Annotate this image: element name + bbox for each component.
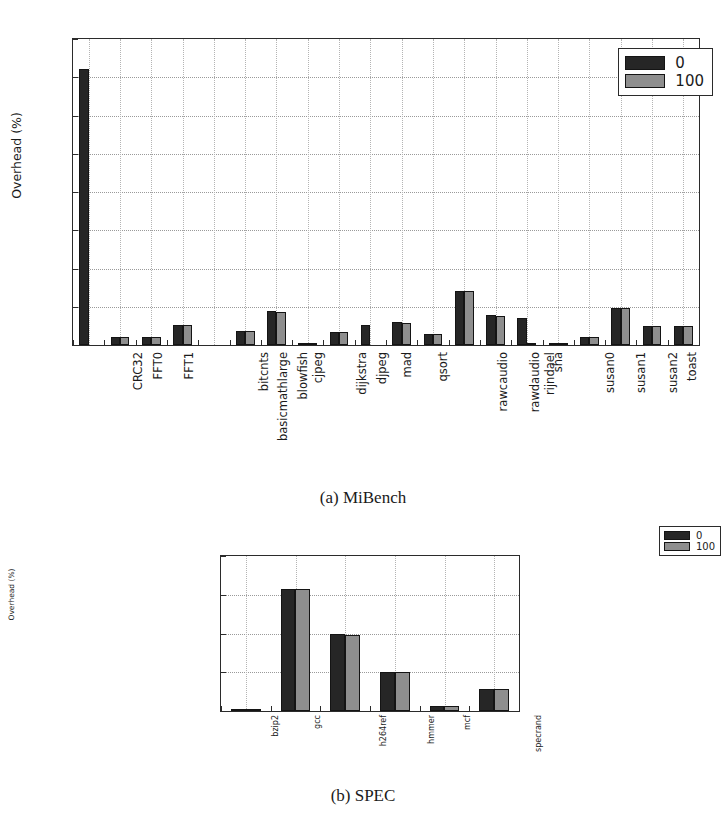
x-tick-label: FFT0 [151, 352, 165, 379]
legend-label: 0 [675, 54, 685, 72]
x-tick-label: h264ref [379, 715, 388, 746]
bar-specrand-100 [494, 689, 509, 711]
x-gridline [245, 39, 246, 345]
bar-group [643, 326, 662, 345]
x-tick-label: susan1 [634, 352, 648, 393]
x-gridline [151, 39, 152, 345]
bar-group [392, 322, 411, 345]
x-tick-label: CRC32 [131, 352, 145, 390]
x-tick-mark [136, 340, 137, 345]
x-tick-label: basicmathlarge [276, 352, 290, 441]
plot-area-spec: 0.00.51.01.52.0 [220, 555, 520, 712]
bar-dijkstra-0 [298, 343, 307, 345]
bar-cjpeg-100 [276, 312, 285, 345]
x-gridline [214, 39, 215, 345]
bar-group [611, 308, 630, 345]
x-gridline [589, 39, 590, 345]
x-tick-label: rawcaudio [496, 352, 510, 411]
x-gridline [558, 39, 559, 345]
bar-group [330, 634, 360, 711]
x-tick-mark [230, 340, 231, 345]
bar-group [231, 709, 261, 711]
x-tick-label: gcc [312, 715, 321, 729]
legend-swatch-0 [625, 56, 665, 70]
bar-cjpeg-0 [267, 311, 276, 345]
y-tick-mark [73, 230, 78, 231]
bar-group [486, 315, 505, 345]
bar-untoast-0 [674, 326, 683, 345]
x-tick-mark [271, 706, 272, 711]
y-gridline [73, 77, 699, 78]
bar-susan2-0 [611, 308, 620, 345]
x-tick-mark [449, 340, 450, 345]
x-tick-mark [417, 340, 418, 345]
x-gridline [370, 39, 371, 345]
legend-swatch-100 [625, 74, 665, 88]
y-tick-mark [221, 595, 226, 596]
bar-qsort-0 [392, 322, 401, 345]
bar-group [236, 331, 255, 345]
legend-item-100: 100 [625, 72, 704, 90]
legend-item-0: 0 [664, 530, 715, 541]
y-gridline [73, 154, 699, 155]
x-tick-mark [636, 340, 637, 345]
y-tick-mark [73, 39, 78, 40]
x-tick-mark [198, 340, 199, 345]
bar-group [430, 706, 460, 711]
y-tick-label: 3.5 [72, 69, 73, 85]
x-tick-label: bitcnts [257, 352, 271, 391]
y-tick-label: 0.5 [220, 667, 221, 677]
figure-spec: Overhead (%) 0.00.51.01.52.0 (b) SPEC bz… [0, 520, 726, 836]
chart-legend: 0100 [659, 526, 721, 556]
figure-caption: (b) SPEC [0, 786, 726, 806]
x-gridline [494, 556, 495, 711]
bar-group [549, 343, 568, 345]
bar-group [674, 326, 693, 345]
y-tick-mark [73, 192, 78, 193]
chart-legend: 0100 [618, 48, 713, 96]
x-tick-mark [386, 340, 387, 345]
bar-group [361, 325, 380, 345]
bar-susan2-100 [621, 308, 630, 345]
bar-h264ref-100 [345, 635, 360, 711]
x-gridline [183, 39, 184, 345]
bar-blowfish-0 [236, 331, 245, 345]
bar-rawdaudio-100 [464, 291, 473, 345]
legend-label: 100 [675, 72, 704, 90]
y-tick-mark [221, 711, 226, 712]
y-tick-label: 2.0 [220, 555, 221, 561]
y-tick-label: 2.5 [72, 146, 73, 162]
legend-label: 100 [696, 541, 715, 552]
x-tick-mark [370, 706, 371, 711]
x-tick-mark [323, 340, 324, 345]
bar-susan1-0 [580, 337, 589, 345]
x-tick-mark [73, 340, 74, 345]
y-gridline [221, 595, 519, 596]
y-tick-label: 3.0 [72, 108, 73, 124]
y-gridline [73, 192, 699, 193]
x-tick-label: susan0 [603, 352, 617, 393]
bar-group [173, 325, 192, 345]
bar-susan0-100 [558, 343, 567, 345]
x-tick-mark [480, 340, 481, 345]
legend-swatch-0 [664, 531, 690, 540]
bar-rijndael-0 [486, 315, 495, 345]
y-gridline [73, 116, 699, 117]
bar-FFT1-100 [151, 337, 160, 345]
y-tick-label: 1.5 [72, 222, 73, 238]
bar-gcc-100 [295, 589, 310, 711]
x-tick-mark [355, 340, 356, 345]
x-tick-mark [668, 340, 669, 345]
x-gridline [433, 39, 434, 345]
y-tick-mark [73, 116, 78, 117]
x-tick-mark [104, 340, 105, 345]
bar-mcf-0 [430, 706, 445, 711]
x-tick-label: FFT1 [183, 352, 197, 379]
y-gridline [73, 230, 699, 231]
x-gridline [445, 556, 446, 711]
bar-djpeg-0 [330, 332, 339, 345]
y-tick-label: 2.0 [72, 184, 73, 200]
bar-hmmer-0 [380, 672, 395, 711]
bar-mcf-100 [444, 706, 459, 711]
x-tick-mark [605, 340, 606, 345]
